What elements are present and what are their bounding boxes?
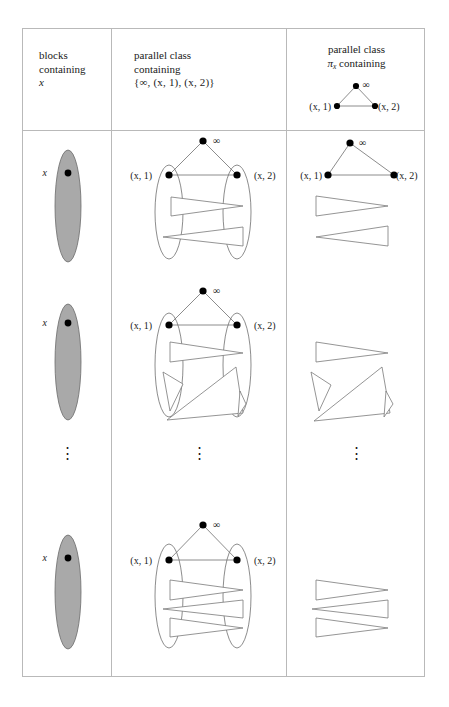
parallel-class-pi-graphic-row-1: ∞ (x, 1) (x, 2) bbox=[287, 130, 426, 280]
wedge-1 bbox=[170, 342, 243, 362]
header-triangle-graph: ∞ (x, 1) (x, 2) bbox=[287, 29, 426, 130]
node-infinity bbox=[199, 137, 206, 144]
edge-infinity-to-x1 bbox=[337, 86, 356, 106]
cell-block-row-2: x bbox=[23, 280, 111, 440]
cell-parallel-class-pi-ellipsis: ⋮ bbox=[287, 440, 426, 520]
point-x-node bbox=[65, 555, 72, 562]
vertical-dots-column-1: ⋮ bbox=[23, 446, 111, 461]
edge-infinity-to-x1 bbox=[169, 291, 203, 325]
header-cell-parallel-class: parallel class containing {∞, (x, 1), (x… bbox=[112, 29, 286, 130]
block-ellipse-graphic-row-2: x bbox=[23, 280, 111, 440]
label-x1: (x, 1) bbox=[300, 170, 322, 182]
header-set-notation: {∞, (x, 1), (x, 2)} bbox=[134, 76, 215, 90]
wedge-1 bbox=[316, 196, 388, 216]
node-infinity bbox=[346, 139, 353, 146]
wedge-2 bbox=[316, 226, 388, 246]
node-x1 bbox=[334, 103, 340, 109]
wedge-3 bbox=[170, 618, 243, 637]
parallel-class-pi-graphic-row-3 bbox=[287, 520, 426, 677]
wedge-2 bbox=[163, 227, 243, 246]
edge-infinity-to-x2 bbox=[350, 143, 394, 175]
label-x1: (x, 1) bbox=[309, 101, 331, 113]
header-text-parallel-class: parallel class containing {∞, (x, 1), (x… bbox=[134, 49, 215, 90]
edge-infinity-to-x1 bbox=[169, 141, 203, 175]
label-infinity: ∞ bbox=[213, 285, 220, 296]
figure-table: blocks containing x parallel class conta… bbox=[22, 28, 425, 677]
node-infinity bbox=[199, 287, 206, 294]
header-line-3: x bbox=[39, 76, 85, 90]
wedge-2 bbox=[163, 372, 183, 411]
node-infinity bbox=[199, 521, 206, 528]
label-x2: (x, 2) bbox=[254, 320, 276, 332]
label-x1: (x, 1) bbox=[130, 555, 152, 567]
cell-block-ellipsis: ⋮ bbox=[23, 440, 111, 520]
label-infinity: ∞ bbox=[213, 519, 220, 530]
cell-parallel-class-pi-row-2 bbox=[287, 280, 426, 440]
wedge-2 bbox=[312, 600, 388, 618]
wedge-1 bbox=[316, 342, 388, 362]
parallel-class-pi-graphic-row-2 bbox=[287, 280, 426, 440]
cell-parallel-class-row-2: ∞ (x, 1) (x, 2) bbox=[112, 280, 286, 440]
header-line-1: blocks bbox=[39, 49, 85, 63]
parallel-class-graphic-row-2: ∞ (x, 1) (x, 2) bbox=[112, 280, 286, 440]
wedge-2 bbox=[163, 600, 243, 618]
block-ellipse-graphic-row-3: x bbox=[23, 520, 111, 677]
node-x1 bbox=[165, 556, 172, 563]
label-infinity: ∞ bbox=[363, 79, 370, 90]
block-ellipse bbox=[55, 535, 81, 649]
point-x-label: x bbox=[42, 552, 48, 563]
edge-infinity-to-x2 bbox=[203, 141, 237, 175]
edge-infinity-to-x2 bbox=[203, 291, 237, 325]
label-infinity: ∞ bbox=[359, 137, 366, 148]
header-cell-parallel-class-pi: parallel class πx containing ∞ (x, 1) (x… bbox=[287, 29, 426, 130]
parallel-class-graphic-row-1: ∞ (x, 1) (x, 2) bbox=[112, 130, 286, 280]
header-line-2: containing bbox=[39, 63, 85, 77]
cell-block-row-3: x bbox=[23, 520, 111, 677]
block-ellipse-graphic-row-1: x bbox=[23, 130, 111, 280]
parallel-class-graphic-row-3: ∞ (x, 1) (x, 2) bbox=[112, 520, 286, 677]
label-x2: (x, 2) bbox=[254, 555, 276, 567]
vertical-dots-column-2: ⋮ bbox=[112, 446, 286, 461]
label-x2: (x, 2) bbox=[378, 101, 400, 113]
cell-parallel-class-pi-row-3 bbox=[287, 520, 426, 677]
point-x-node bbox=[65, 320, 72, 327]
edge-infinity-to-x1 bbox=[169, 525, 203, 560]
node-x1 bbox=[165, 171, 172, 178]
point-x-label: x bbox=[42, 167, 48, 178]
node-x2 bbox=[233, 556, 240, 563]
node-x2 bbox=[233, 321, 240, 328]
wedge-1 bbox=[171, 197, 243, 216]
wedge-3 bbox=[316, 618, 388, 637]
header-cell-blocks: blocks containing x bbox=[23, 29, 111, 130]
header-text-blocks: blocks containing x bbox=[39, 49, 85, 90]
node-x1 bbox=[165, 321, 172, 328]
label-x2: (x, 2) bbox=[254, 170, 276, 182]
wedge-1 bbox=[316, 580, 388, 600]
node-infinity bbox=[353, 83, 359, 89]
block-ellipse bbox=[55, 150, 81, 262]
header-line-2: containing bbox=[134, 63, 215, 77]
cell-block-row-1: x bbox=[23, 130, 111, 280]
point-x-node bbox=[65, 170, 72, 177]
wedge-1 bbox=[170, 580, 243, 600]
label-x1: (x, 1) bbox=[130, 170, 152, 182]
cell-parallel-class-ellipsis: ⋮ bbox=[112, 440, 286, 520]
cell-parallel-class-row-3: ∞ (x, 1) (x, 2) bbox=[112, 520, 286, 677]
node-x1 bbox=[324, 171, 331, 178]
wedge-2 bbox=[311, 372, 331, 411]
node-x2 bbox=[233, 171, 240, 178]
cell-parallel-class-row-1: ∞ (x, 1) (x, 2) bbox=[112, 130, 286, 280]
vertical-dots-column-3: ⋮ bbox=[287, 446, 426, 461]
edge-infinity-to-x1 bbox=[328, 143, 350, 175]
point-x-label: x bbox=[42, 317, 48, 328]
header-line-1: parallel class bbox=[134, 49, 215, 63]
cell-parallel-class-pi-row-1: ∞ (x, 1) (x, 2) bbox=[287, 130, 426, 280]
label-x1: (x, 1) bbox=[130, 320, 152, 332]
label-infinity: ∞ bbox=[213, 135, 220, 146]
label-x2: (x, 2) bbox=[396, 170, 418, 182]
edge-infinity-to-x2 bbox=[203, 525, 237, 560]
